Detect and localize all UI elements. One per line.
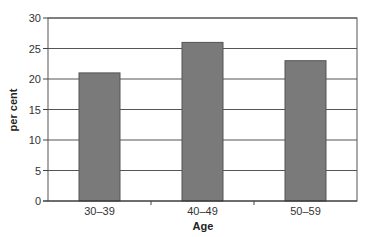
bars	[79, 42, 326, 201]
x-axis-ticks: 30–3940–4950–59	[84, 201, 321, 217]
bar-50–59	[285, 61, 326, 201]
y-tick-label: 10	[29, 134, 41, 146]
y-axis-ticks: 051015202530	[29, 12, 48, 207]
bar-30–39	[79, 73, 120, 201]
y-tick-label: 0	[35, 195, 41, 207]
y-tick-label: 15	[29, 104, 41, 116]
x-tick-label: 30–39	[84, 205, 115, 217]
y-tick-label: 25	[29, 43, 41, 55]
x-tick-label: 50–59	[290, 205, 321, 217]
y-tick-label: 5	[35, 165, 41, 177]
x-axis-title: Age	[193, 220, 214, 232]
y-tick-label: 20	[29, 73, 41, 85]
y-axis-title: per cent	[7, 88, 19, 131]
x-tick-label: 40–49	[187, 205, 218, 217]
bar-40–49	[182, 42, 223, 201]
y-tick-label: 30	[29, 12, 41, 24]
bar-chart: 051015202530 30–3940–4950–59 Age per cen…	[0, 0, 378, 237]
